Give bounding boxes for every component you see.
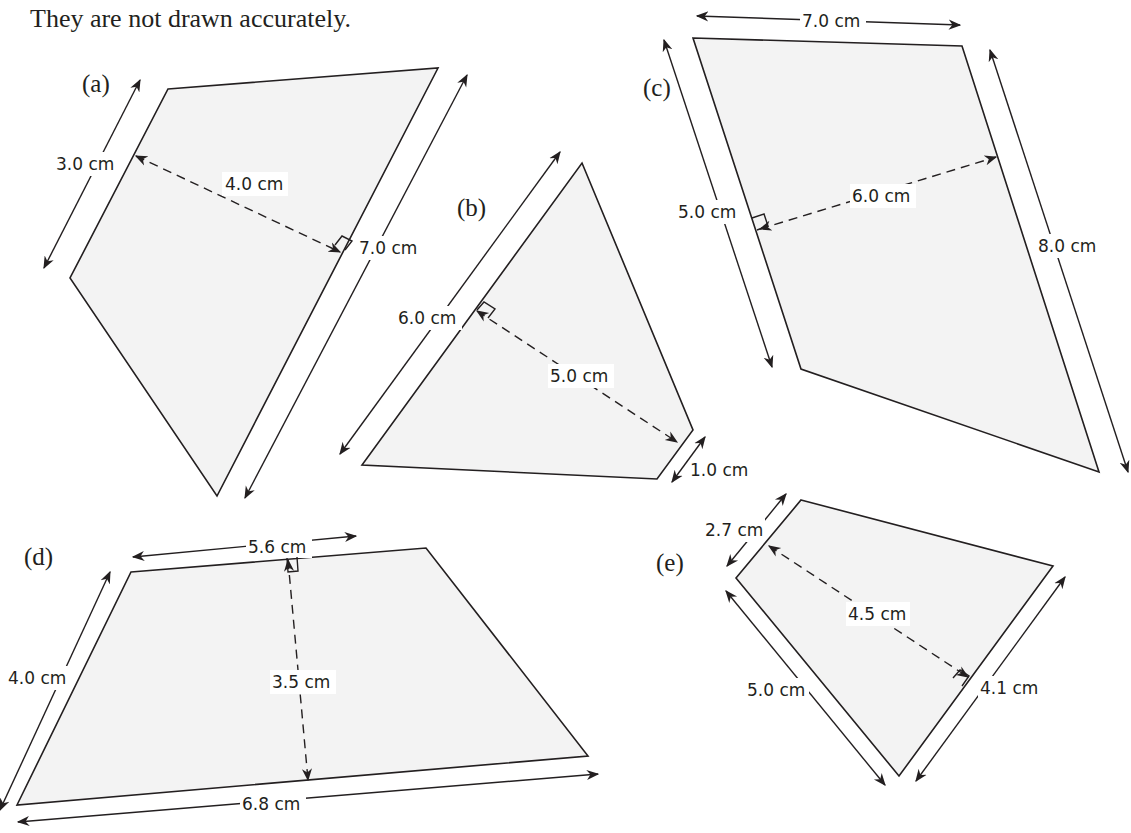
- label-b-long-side: 6.0 cm: [398, 308, 456, 328]
- dimension-arrow-d-top: [133, 536, 356, 557]
- label-c-left-side: 5.0 cm: [678, 202, 736, 222]
- trapezium-diagrams: (a) 3.0 cm 7.0 cm 4.0 cm (b) 6.0 cm 1.0 …: [0, 0, 1131, 833]
- trapezium-a: [70, 68, 438, 496]
- trapezium-e: [736, 500, 1053, 776]
- label-a-short-side: 3.0 cm: [56, 154, 114, 174]
- part-label-e: (e): [656, 549, 684, 577]
- label-d-top-side: 5.6 cm: [248, 537, 306, 557]
- label-d-bottom-side: 6.8 cm: [242, 794, 300, 814]
- part-label-a: (a): [82, 70, 110, 98]
- label-e-height: 4.5 cm: [848, 604, 906, 624]
- label-d-slant-side: 4.0 cm: [8, 668, 66, 688]
- label-c-height: 6.0 cm: [852, 186, 910, 206]
- part-label-b: (b): [457, 194, 486, 222]
- label-c-right-side: 8.0 cm: [1038, 236, 1096, 256]
- shape-d: (d) 5.6 cm 6.8 cm 4.0 cm 3.5 cm: [0, 536, 598, 822]
- shape-c: (c) 7.0 cm 5.0 cm 8.0 cm 6.0 cm: [643, 8, 1128, 472]
- label-e-short-side: 2.7 cm: [705, 520, 763, 540]
- part-label-d: (d): [24, 543, 53, 571]
- label-a-long-side: 7.0 cm: [359, 238, 417, 258]
- label-a-height: 4.0 cm: [225, 174, 283, 194]
- label-e-long-side: 4.1 cm: [980, 678, 1038, 698]
- part-label-c: (c): [643, 74, 671, 102]
- label-b-short-side: 1.0 cm: [690, 460, 748, 480]
- shape-e: (e) 2.7 cm 5.0 cm 4.1 cm 4.5 cm: [656, 494, 1065, 785]
- label-c-top-side: 7.0 cm: [802, 11, 860, 31]
- label-d-height: 3.5 cm: [272, 672, 330, 692]
- label-b-height: 5.0 cm: [550, 366, 608, 386]
- label-e-slant-side: 5.0 cm: [747, 680, 805, 700]
